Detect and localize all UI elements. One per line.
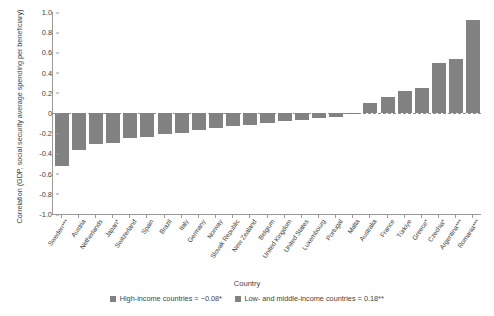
bar: [243, 113, 257, 125]
x-axis-tickmark: [284, 214, 285, 218]
y-axis-tick-label: -0.6: [0, 169, 56, 178]
bar: [72, 113, 86, 150]
x-axis-tickmark: [146, 214, 147, 218]
bar: [312, 113, 326, 118]
x-axis-tick-label: Australia: [358, 218, 378, 242]
bar: [209, 113, 223, 128]
chart-legend: High-income countries = −0.08*Low- and m…: [0, 294, 494, 303]
x-axis-tick-label: Austria: [69, 218, 86, 238]
x-axis-tickmark: [78, 214, 79, 218]
x-axis-tickmark: [215, 214, 216, 218]
bar: [432, 63, 446, 114]
x-axis-tick-label: Portugal: [324, 218, 343, 241]
bar-series: [53, 12, 481, 214]
x-axis-tickmark: [249, 214, 250, 218]
x-axis-tickmark: [404, 214, 405, 218]
x-axis-tickmark: [232, 214, 233, 218]
y-axis-tick-label: -1.0: [0, 210, 56, 219]
legend-item[interactable]: Low- and middle-income countries = 0.18*…: [235, 294, 384, 303]
bar: [329, 113, 343, 117]
x-axis-tick-label: Italy: [177, 218, 189, 232]
x-axis-title: Country: [0, 279, 494, 288]
x-axis-tickmark: [318, 214, 319, 218]
x-axis-tickmark: [421, 214, 422, 218]
bar: [398, 91, 412, 113]
y-axis-tick-label: 0.6: [0, 48, 56, 57]
legend-label: Low- and middle-income countries = 0.18*…: [244, 294, 383, 303]
x-axis-tickmark: [267, 214, 268, 218]
bar: [123, 113, 137, 138]
y-axis-tick-label: 0: [0, 109, 56, 118]
bar: [175, 113, 189, 133]
x-axis-tickmark: [164, 214, 165, 218]
bar: [278, 113, 292, 121]
x-axis-tickmark: [198, 214, 199, 218]
bar: [363, 103, 377, 113]
x-axis-tickmark: [61, 214, 62, 218]
x-axis-tickmark: [472, 214, 473, 218]
x-axis-tickmark: [369, 214, 370, 218]
x-axis-tick-label: France: [378, 218, 395, 238]
x-axis-tickmark: [352, 214, 353, 218]
chart-figure: Correlation (GDP, social security averag…: [0, 0, 494, 316]
legend-label: High-income countries = −0.08*: [120, 294, 222, 303]
y-axis-tick-label: 1.0: [0, 8, 56, 17]
x-axis-tickmark: [181, 214, 182, 218]
bar: [158, 113, 172, 134]
legend-swatch: [235, 296, 241, 302]
x-axis-tickmark: [301, 214, 302, 218]
x-axis-tickmark: [387, 214, 388, 218]
y-axis-tick-label: 0.4: [0, 68, 56, 77]
legend-swatch: [110, 296, 116, 302]
bar: [192, 113, 206, 130]
bar: [449, 59, 463, 113]
bar: [226, 113, 240, 126]
x-axis-tickmark: [129, 214, 130, 218]
bar: [295, 113, 309, 120]
bar: [346, 113, 360, 114]
bar: [140, 113, 154, 137]
bar: [466, 20, 480, 113]
x-axis-labels: Sweden***AustriaNetherlandsJapan*Switzer…: [52, 218, 481, 278]
x-axis-tick-label: Brazil: [157, 218, 172, 235]
bar: [415, 88, 429, 113]
bar: [89, 113, 103, 144]
x-axis-tick-label: Spain: [140, 218, 155, 235]
y-axis-tick-label: -0.2: [0, 129, 56, 138]
x-axis-tickmark: [335, 214, 336, 218]
y-axis-tick-label: -0.8: [0, 189, 56, 198]
y-axis-tick-label: 0.2: [0, 88, 56, 97]
legend-item[interactable]: High-income countries = −0.08*: [110, 294, 222, 303]
x-axis-tickmark: [112, 214, 113, 218]
bar: [106, 113, 120, 143]
x-axis-tickmark: [95, 214, 96, 218]
plot-area: [52, 12, 481, 214]
bar: [381, 97, 395, 113]
y-axis-tick-label: 0.8: [0, 28, 56, 37]
x-axis-tickmark: [455, 214, 456, 218]
x-axis-tickmark: [438, 214, 439, 218]
bar: [55, 113, 69, 166]
bar: [260, 113, 274, 123]
x-axis-tick-label: Malta: [346, 218, 361, 235]
x-axis-tick-label: Sweden***: [46, 218, 69, 247]
y-axis-tick-label: -0.4: [0, 149, 56, 158]
